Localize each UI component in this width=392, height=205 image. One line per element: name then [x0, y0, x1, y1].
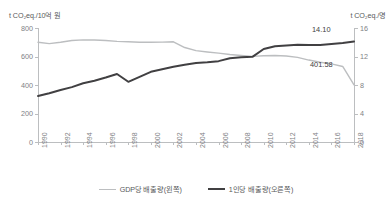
chart-container: t CO₂eq./10억 원 t CO₂eq./명 0200400600800 … [0, 0, 392, 205]
data-label-gdp: 401.58 [310, 61, 333, 68]
series-line-percapita [38, 42, 354, 97]
legend-swatch-icon-gdp [99, 189, 116, 190]
data-label-percapita: 14.10 [312, 26, 331, 33]
legend-label-gdp: GDP당 배출량(왼쪽) [120, 184, 182, 194]
legend-item-gdp[interactable]: GDP당 배출량(왼쪽) [99, 184, 182, 194]
chart-plot-area [0, 0, 392, 205]
legend-label-percapita: 1인당 배출량(오른쪽) [229, 184, 293, 194]
legend-swatch-icon-percapita [208, 188, 225, 190]
chart-legend: GDP당 배출량(왼쪽) 1인당 배출량(오른쪽) [0, 184, 392, 194]
legend-item-percapita[interactable]: 1인당 배출량(오른쪽) [208, 184, 293, 194]
